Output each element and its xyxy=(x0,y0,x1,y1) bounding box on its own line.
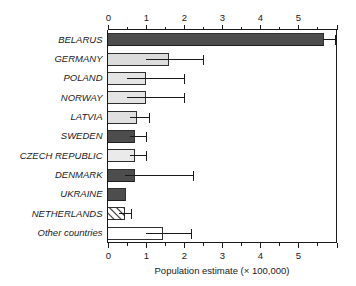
bar-czech-republic xyxy=(108,150,135,162)
xtick-label-bottom-5: 5 xyxy=(296,250,301,261)
xtick-label-bottom-3: 3 xyxy=(220,250,225,261)
bar-belarus xyxy=(108,34,324,46)
bar-chart: 001122334455BELARUSGERMANYPOLANDNORWAYLA… xyxy=(0,0,356,286)
xtick-label-top-2: 2 xyxy=(182,12,187,23)
error-bar-belarus xyxy=(323,35,335,45)
category-label-ukraine: UKRAINE xyxy=(60,188,103,199)
xtick-label-top-5: 5 xyxy=(296,12,301,23)
xtick-label-bottom-2: 2 xyxy=(182,250,187,261)
xtick-label-bottom-4: 4 xyxy=(258,250,263,261)
bar-sweden xyxy=(108,131,135,143)
xtick-label-top-4: 4 xyxy=(258,12,263,23)
xtick-label-bottom-0: 0 xyxy=(106,250,111,261)
category-label-czech-republic: CZECH REPUBLIC xyxy=(20,150,103,161)
category-label-sweden: SWEDEN xyxy=(61,130,103,141)
category-label-other-countries: Other countries xyxy=(38,227,103,238)
error-bar-denmark xyxy=(125,171,194,181)
xtick-label-bottom-1: 1 xyxy=(144,250,149,261)
category-label-germany: GERMANY xyxy=(54,53,103,64)
xtick-label-top-3: 3 xyxy=(220,12,225,23)
category-label-poland: POLAND xyxy=(63,72,102,83)
category-label-norway: NORWAY xyxy=(61,92,103,103)
xtick-label-top-0: 0 xyxy=(106,12,111,23)
category-label-denmark: DENMARK xyxy=(55,169,103,180)
category-label-netherlands: NETHERLANDS xyxy=(32,208,103,219)
category-label-belarus: BELARUS xyxy=(58,34,103,45)
xtick-label-top-1: 1 xyxy=(144,12,149,23)
chart-canvas: 001122334455BELARUSGERMANYPOLANDNORWAYLA… xyxy=(0,0,356,286)
x-axis-title: Population estimate (× 100,000) xyxy=(155,265,290,276)
category-labels: BELARUSGERMANYPOLANDNORWAYLATVIASWEDENCZ… xyxy=(20,34,104,239)
bar-ukraine xyxy=(108,189,126,201)
category-label-latvia: LATVIA xyxy=(70,111,102,122)
